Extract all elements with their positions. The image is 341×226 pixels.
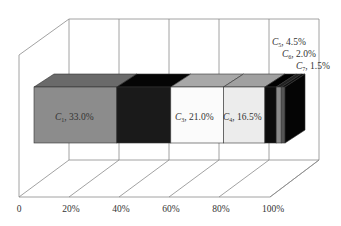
bar-segments xyxy=(34,74,305,143)
tick-20: 20% xyxy=(62,204,80,214)
label-c7: C7, 1.5% xyxy=(296,61,330,72)
tick-100: 100% xyxy=(262,204,284,214)
segment-c5 xyxy=(265,87,276,143)
segment-c2 xyxy=(117,87,171,143)
x-axis-ticks: 0 20% 40% 60% 80% 100% xyxy=(17,204,285,214)
label-c1: C1, 33.0% xyxy=(55,112,94,123)
tick-80: 80% xyxy=(212,204,230,214)
segment-c6 xyxy=(276,87,281,143)
label-c5: C5, 4.5% xyxy=(272,37,306,48)
label-c3: C3, 21.0% xyxy=(175,112,214,123)
label-c6: C6, 2.0% xyxy=(282,49,316,60)
tick-60: 60% xyxy=(162,204,180,214)
tick-40: 40% xyxy=(112,204,130,214)
tick-0: 0 xyxy=(17,204,22,214)
segment-c7 xyxy=(281,87,285,143)
label-c4: C4, 16.5% xyxy=(223,112,262,123)
stacked-bar-chart-3d: C1, 33.0% C3, 21.0% C4, 16.5% C5, 4.5% C… xyxy=(0,0,341,226)
